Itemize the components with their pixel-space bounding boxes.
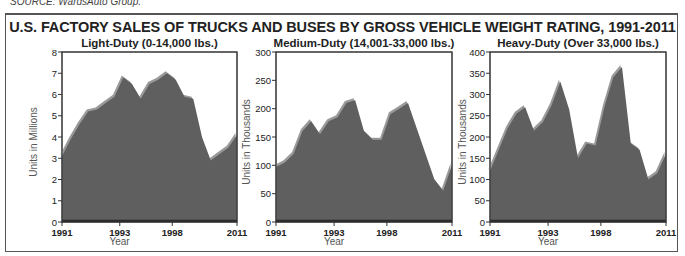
y-tick-label: 6 [52, 89, 57, 100]
y-tick-label: 100 [255, 160, 271, 171]
y-tick-label: 250 [255, 75, 271, 86]
x-tick-label: 2011 [227, 227, 248, 238]
y-tick-label: 8 [52, 47, 57, 58]
y-tick-label: 5 [52, 110, 57, 121]
medium-duty-x-axis-label: Year [324, 236, 345, 247]
y-tick-label: 4 [52, 132, 57, 143]
y-tick-label: 150 [469, 153, 485, 164]
y-tick-label: 50 [260, 188, 271, 199]
y-tick-label: 50 [474, 195, 485, 206]
x-tick-label: 2011 [656, 227, 677, 238]
y-tick-label: 150 [255, 132, 271, 143]
x-tick-label: 1998 [376, 227, 397, 238]
medium-duty-y-axis-label: Units in Thousands [241, 99, 252, 184]
x-tick-label: 2011 [442, 227, 463, 238]
y-tick-label: 100 [469, 174, 485, 185]
y-tick-label: 300 [255, 47, 271, 58]
y-tick-label: 0 [266, 217, 271, 228]
x-tick-label: 1991 [265, 227, 287, 238]
y-tick-label: 1 [52, 195, 57, 206]
light-duty-y-axis-label: Units in Millions [28, 107, 39, 176]
light-duty-chart: Light-Duty (0-14,000 lbs.)01234567819911… [28, 37, 248, 247]
charts-canvas: Light-Duty (0-14,000 lbs.)01234567819911… [0, 0, 685, 256]
x-tick-label: 1991 [479, 227, 501, 238]
heavy-duty-y-axis-label: Units in Thousands [457, 99, 468, 184]
x-tick-label: 1998 [162, 227, 183, 238]
y-tick-label: 350 [469, 68, 485, 79]
light-duty-title: Light-Duty (0-14,000 lbs.) [81, 37, 218, 49]
x-tick-label: 1991 [51, 227, 73, 238]
y-tick-label: 0 [52, 217, 57, 228]
x-tick-label: 1998 [590, 227, 611, 238]
y-tick-label: 200 [255, 103, 271, 114]
heavy-duty-title: Heavy-Duty (Over 33,000 lbs.) [497, 37, 659, 49]
heavy-duty-x-axis-label: Year [538, 236, 559, 247]
light-duty-x-axis-label: Year [109, 236, 130, 247]
y-tick-label: 2 [52, 174, 57, 185]
y-tick-label: 3 [52, 153, 57, 164]
y-tick-label: 7 [52, 68, 57, 79]
y-tick-label: 200 [469, 132, 485, 143]
y-tick-label: 400 [469, 47, 485, 58]
medium-duty-chart: Medium-Duty (14,001-33,000 lbs.)05010015… [241, 37, 463, 247]
y-tick-label: 0 [480, 217, 485, 228]
y-tick-label: 300 [469, 89, 485, 100]
y-tick-label: 250 [469, 110, 485, 121]
heavy-duty-chart: Heavy-Duty (Over 33,000 lbs.)05010015020… [457, 37, 677, 247]
medium-duty-title: Medium-Duty (14,001-33,000 lbs.) [274, 37, 455, 49]
